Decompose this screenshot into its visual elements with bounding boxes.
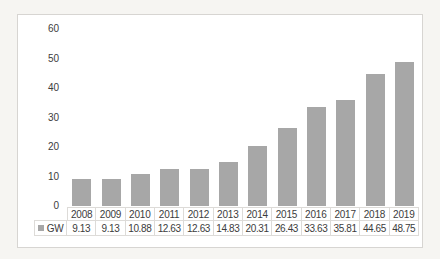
year-cell: 2010 <box>125 207 155 221</box>
value-cell: 10.88 <box>125 220 155 236</box>
value-cell: 12.63 <box>183 220 213 236</box>
y-axis-tick-label: 60 <box>19 23 59 35</box>
y-axis-tick-label: 40 <box>19 82 59 94</box>
year-cell: 2014 <box>242 207 272 221</box>
year-cell: 2013 <box>213 207 243 221</box>
year-cell: 2017 <box>330 207 360 221</box>
bar-2019 <box>395 62 414 206</box>
plot-area <box>67 15 419 207</box>
data-table-values-row: GW 9.139.1310.8812.6312.6314.8320.3126.4… <box>34 220 420 236</box>
gw-series-swatch-icon <box>38 225 44 231</box>
y-axis-tick-label: 50 <box>19 53 59 65</box>
year-cell: 2009 <box>95 207 125 221</box>
bar-2012 <box>190 169 209 206</box>
bar-2009 <box>102 179 121 206</box>
bar-2011 <box>160 169 179 206</box>
y-axis: 6050403020100 <box>18 15 61 247</box>
chart-frame: 6050403020100 20082009201020112012201320… <box>17 14 423 248</box>
year-cell: 2016 <box>301 207 331 221</box>
bar-2015 <box>278 128 297 206</box>
x-axis-category-row: 2008200920102011201220132014201520162017… <box>67 207 420 221</box>
value-cell: 9.13 <box>66 220 96 236</box>
bar-2016 <box>307 107 326 206</box>
year-cell: 2011 <box>154 207 184 221</box>
legend-label: GW <box>47 223 63 234</box>
value-cell: 9.13 <box>95 220 125 236</box>
value-cell: 35.81 <box>330 220 360 236</box>
year-cell: 2018 <box>359 207 389 221</box>
bar-2013 <box>219 162 238 206</box>
value-cell: 26.43 <box>271 220 301 236</box>
bar-2017 <box>336 100 355 206</box>
bar-2010 <box>131 174 150 206</box>
legend-cell: GW <box>34 220 67 236</box>
value-cell: 20.31 <box>242 220 272 236</box>
year-cell: 2019 <box>389 207 419 221</box>
value-cell: 44.65 <box>359 220 389 236</box>
bar-2018 <box>366 74 385 206</box>
y-axis-tick-label: 20 <box>19 141 59 153</box>
bar-2014 <box>248 146 267 206</box>
page-background: 6050403020100 20082009201020112012201320… <box>0 0 440 259</box>
year-cell: 2008 <box>67 207 96 221</box>
y-axis-tick-label: 10 <box>19 171 59 183</box>
year-cell: 2012 <box>183 207 213 221</box>
year-cell: 2015 <box>271 207 301 221</box>
value-cell: 48.75 <box>389 220 419 236</box>
value-cell: 33.63 <box>301 220 331 236</box>
y-axis-tick-label: 0 <box>19 200 59 212</box>
value-cell: 12.63 <box>154 220 184 236</box>
bar-2008 <box>72 179 91 206</box>
value-cell: 14.83 <box>213 220 243 236</box>
y-axis-tick-label: 30 <box>19 112 59 124</box>
